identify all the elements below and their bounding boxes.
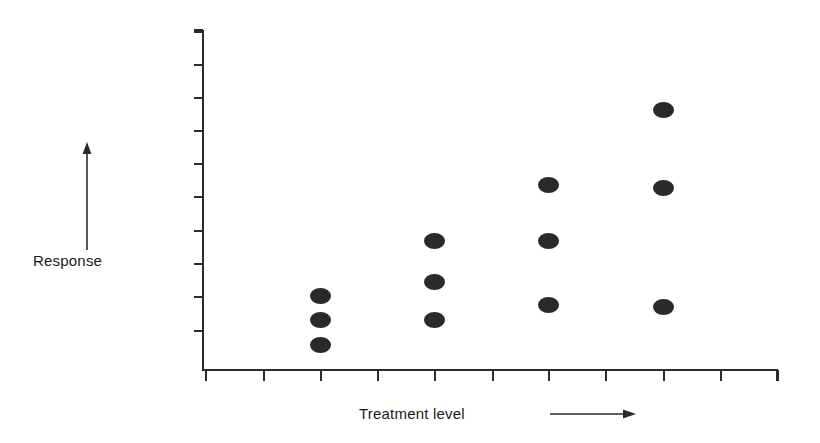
x-axis-tick [263, 370, 265, 381]
data-point [653, 102, 674, 118]
y-axis-tick [194, 196, 203, 198]
data-point [424, 312, 445, 328]
y-axis-tick [194, 330, 203, 332]
x-axis-line [203, 369, 778, 371]
data-point [538, 297, 559, 313]
data-point [310, 288, 331, 304]
x-axis-tick [663, 370, 665, 381]
x-axis-label: Treatment level [359, 405, 465, 422]
x-axis-tick [605, 370, 607, 381]
y-axis-line [202, 30, 204, 371]
x-axis-tick [205, 370, 207, 381]
data-point [538, 233, 559, 249]
data-point [653, 299, 674, 315]
x-axis-tick [777, 370, 779, 381]
right-arrow-icon [550, 408, 636, 420]
y-axis-tick [194, 31, 203, 33]
y-axis-tick [194, 296, 203, 298]
up-arrow-icon [81, 142, 93, 250]
y-axis-tick [194, 64, 203, 66]
y-axis-tick [194, 97, 203, 99]
y-axis-label: Response [33, 252, 102, 269]
y-axis-tick [194, 163, 203, 165]
y-axis-tick [194, 230, 203, 232]
y-axis-tick [194, 263, 203, 265]
data-point [310, 312, 331, 328]
x-axis-tick [377, 370, 379, 381]
x-axis-tick [720, 370, 722, 381]
data-point [538, 177, 559, 193]
x-axis-tick [434, 370, 436, 381]
data-point [310, 337, 331, 353]
scatter-plot-figure: Response Treatment level [0, 0, 820, 443]
data-point [653, 180, 674, 196]
data-point [424, 233, 445, 249]
x-axis-tick [492, 370, 494, 381]
x-axis-tick [548, 370, 550, 381]
data-point [424, 274, 445, 290]
x-axis-tick [320, 370, 322, 381]
y-axis-tick [194, 130, 203, 132]
